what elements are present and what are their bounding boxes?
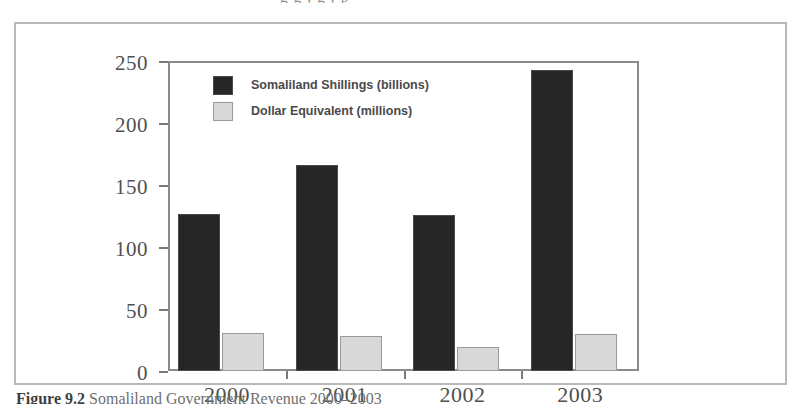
y-axis-tick-label: 150 [115, 175, 148, 200]
y-axis-tick-label: 50 [126, 299, 148, 324]
bar [296, 165, 338, 371]
y-axis-tick: 100 [159, 247, 168, 249]
chart-legend: Somaliland Shillings (billions) Dollar E… [213, 72, 429, 124]
legend-item: Somaliland Shillings (billions) [213, 72, 429, 98]
bar [413, 215, 455, 371]
y-axis-tick: 50 [159, 309, 168, 311]
chart-plot: 050100150200250 2000200120022003 Somalil… [168, 61, 639, 371]
bar [222, 333, 264, 371]
legend-item-label: Dollar Equivalent (millions) [251, 104, 412, 118]
y-axis-tick-label: 250 [115, 51, 148, 76]
figure-caption-text: Somaliland Government Revenue 2000–2003 [89, 390, 382, 404]
dark-square-icon [213, 76, 233, 95]
bar [457, 347, 499, 371]
y-axis-tick-label: 200 [115, 113, 148, 138]
x-axis-tick [404, 371, 406, 379]
y-axis-tick: 200 [159, 123, 168, 125]
legend-item-label: Somaliland Shillings (billions) [251, 78, 429, 92]
bar [340, 336, 382, 371]
figure-caption-label: Figure 9.2 [16, 390, 85, 404]
x-axis-tick [286, 371, 288, 379]
y-axis-tick-label: 0 [137, 361, 148, 386]
y-axis-tick: 250 [159, 61, 168, 63]
legend-item: Dollar Equivalent (millions) [213, 98, 429, 124]
figure-frame: 050100150200250 2000200120022003 Somalil… [14, 22, 787, 385]
figure-caption: Figure 9.2 Somaliland Government Revenue… [16, 390, 716, 404]
bar [531, 70, 573, 371]
x-axis-tick [521, 371, 523, 379]
page-top-clipped-text: g g , g , p [280, 0, 800, 3]
y-axis-tick: 150 [159, 185, 168, 187]
y-axis-tick-label: 100 [115, 237, 148, 262]
bar [178, 214, 220, 371]
bar [575, 334, 617, 371]
y-axis-tick: 0 [159, 371, 168, 373]
light-square-icon [213, 102, 233, 121]
